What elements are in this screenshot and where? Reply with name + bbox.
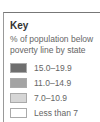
color-swatch	[10, 78, 27, 88]
legend-label: 7.0–10.9	[34, 93, 67, 104]
legend-item: 11.0–14.9	[10, 78, 98, 90]
legend-label: 15.0–19.9	[34, 63, 72, 74]
legend-title: Key	[10, 20, 28, 31]
legend-label: Less than 7	[34, 108, 78, 119]
legend-item: Less than 7	[10, 108, 98, 120]
legend-label: 11.0–14.9	[34, 78, 71, 89]
color-swatch	[10, 63, 27, 73]
legend-item: 7.0–10.9	[10, 93, 98, 105]
legend-description: % of population below poverty line by st…	[10, 34, 98, 56]
color-swatch	[10, 108, 27, 118]
legend-item: 15.0–19.9	[10, 63, 98, 75]
color-swatch	[10, 93, 27, 103]
